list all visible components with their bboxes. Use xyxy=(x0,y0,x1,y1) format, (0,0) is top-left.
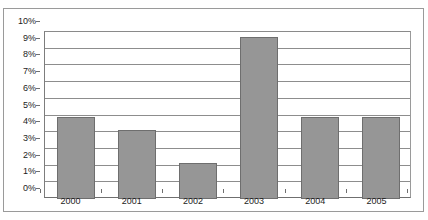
bar-2004 xyxy=(301,117,339,199)
gridline xyxy=(45,64,410,65)
y-axis-tick-mark xyxy=(36,138,40,139)
x-axis-tick-mark xyxy=(101,189,102,193)
y-axis-tick-mark xyxy=(36,155,40,156)
y-axis-tick-label: 6% xyxy=(2,84,36,93)
y-axis-tick-mark xyxy=(36,105,40,106)
y-axis-tick-label: 3% xyxy=(2,134,36,143)
x-axis-tick-label: 2003 xyxy=(224,196,285,206)
x-axis-tick-label: 2005 xyxy=(346,196,407,206)
y-axis-tick-mark xyxy=(36,171,40,172)
x-axis-tick-label: 2000 xyxy=(40,196,101,206)
chart-frame xyxy=(3,8,424,212)
y-axis-tick-label: 7% xyxy=(2,67,36,76)
x-axis-tick-mark xyxy=(407,189,408,193)
plot-area xyxy=(44,31,411,198)
bar-2001 xyxy=(118,130,156,199)
gridline xyxy=(45,131,410,132)
x-axis-tick-label: 2002 xyxy=(162,196,223,206)
gridline xyxy=(45,115,410,116)
y-axis-tick-mark xyxy=(36,88,40,89)
gridline xyxy=(45,181,410,182)
y-axis-tick-mark xyxy=(36,121,40,122)
y-axis-tick-label: 10% xyxy=(2,17,36,26)
gridline xyxy=(45,48,410,49)
bar-2005 xyxy=(362,117,400,199)
gridline xyxy=(45,148,410,149)
x-axis-tick-mark xyxy=(162,189,163,193)
y-axis-tick-mark xyxy=(36,54,40,55)
y-axis-tick-mark xyxy=(36,38,40,39)
x-axis-origin-tick-mark xyxy=(40,189,41,193)
y-axis-tick-mark xyxy=(36,71,40,72)
gridline xyxy=(45,98,410,99)
y-axis-tick-label: 0% xyxy=(2,184,36,193)
gridline xyxy=(45,165,410,166)
chart-title-remnant xyxy=(124,9,314,12)
y-axis-tick-label: 1% xyxy=(2,167,36,176)
y-axis-tick-mark xyxy=(36,21,40,22)
y-axis-tick-label: 8% xyxy=(2,50,36,59)
bar-2000 xyxy=(57,117,95,199)
y-axis-tick-label: 2% xyxy=(2,151,36,160)
y-axis-tick-label: 9% xyxy=(2,34,36,43)
y-axis-tick-label: 4% xyxy=(2,117,36,126)
gridline xyxy=(45,81,410,82)
bar-2003 xyxy=(240,37,278,199)
x-axis-tick-mark xyxy=(223,189,224,193)
x-axis-tick-label: 2004 xyxy=(285,196,346,206)
y-axis-tick-label: 5% xyxy=(2,101,36,110)
x-axis-tick-label: 2001 xyxy=(101,196,162,206)
x-axis-tick-mark xyxy=(285,189,286,193)
x-axis-tick-mark xyxy=(346,189,347,193)
bar-2002 xyxy=(179,163,217,199)
